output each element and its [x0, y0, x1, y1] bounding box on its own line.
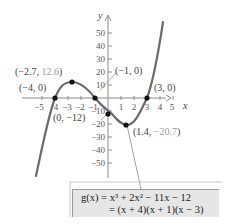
point-x-intercept-neg4 [52, 95, 57, 100]
label-x-intercept-3: (3, 0) [154, 82, 176, 94]
y-tick-label: −30 [91, 132, 106, 142]
y-tick-label: −20 [91, 119, 106, 129]
label-x-intercept-neg4: (−4, 0) [19, 82, 46, 94]
x-tick-label: 4 [158, 102, 163, 112]
x-tick-label: 1 [119, 102, 124, 112]
y-tick-label: −50 [91, 158, 106, 168]
formula-box: g(x) = x³ + 2x² − 11x − 12 = (x + 4)(x +… [72, 189, 219, 217]
x-tick-label: −3 [62, 102, 72, 112]
y-tick-label: 40 [96, 41, 106, 51]
x-axis-arrow-icon [166, 95, 171, 101]
x-tick-label: 4 [54, 102, 59, 112]
point-y-intercept [105, 111, 110, 116]
x-tick-label: −2 [75, 102, 85, 112]
point-x-intercept-3 [144, 95, 149, 100]
x-axis-label: x [182, 100, 188, 111]
y-tick-label: 30 [96, 54, 106, 64]
formula-line-1: g(x) = x³ + 2x² − 11x − 12 [81, 192, 219, 204]
x-tick-label: −5 [34, 102, 44, 112]
y-tick-label: −40 [91, 145, 106, 155]
y-tick-label: 50 [96, 28, 106, 38]
point-local-max [69, 79, 74, 84]
y-axis-label: y [97, 10, 103, 21]
point-x-intercept-neg1 [92, 95, 97, 100]
x-tick-label: 5 [170, 102, 175, 112]
x-tick-label: 2 [132, 102, 137, 112]
y-tick-label: 20 [96, 67, 106, 77]
label-x-intercept-neg1: (−1, 0) [115, 65, 142, 77]
formula-line-2: = (x + 4)(x + 1)(x − 3) [81, 204, 219, 216]
label-y-intercept: (0, −12) [53, 112, 85, 124]
point-local-min [123, 122, 128, 127]
label-local-min: (1.4, −20.7) [133, 126, 180, 138]
label-local-max: (−2.7, 12.6) [15, 66, 62, 78]
y-tick-label: 10 [96, 80, 106, 90]
